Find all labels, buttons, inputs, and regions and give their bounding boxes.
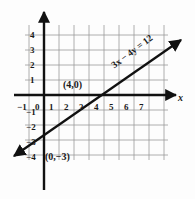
y-tick-label-neg2: −2 bbox=[26, 123, 36, 132]
y-tick-label-neg4: −4 bbox=[26, 153, 36, 162]
x-tick-label-4: 4 bbox=[94, 103, 99, 112]
y-tick-label-2: 2 bbox=[30, 61, 35, 70]
y-tick-label-neg3: −3 bbox=[26, 138, 36, 147]
x-tick-label-7: 7 bbox=[139, 103, 144, 112]
y-tick-label-4: 4 bbox=[30, 31, 35, 40]
x-tick-label-3: 3 bbox=[79, 103, 84, 112]
plotted-line-3x-4y-12 bbox=[14, 40, 181, 156]
point-label-x-intercept: (4,0) bbox=[63, 80, 82, 90]
coordinate-graph-figure: −1 0 1 2 3 4 5 6 7 4 3 2 1 −1 −2 −3 −4 (… bbox=[0, 0, 195, 199]
point-label-y-intercept: (0,−3) bbox=[45, 152, 70, 162]
x-tick-label-5: 5 bbox=[109, 103, 114, 112]
x-tick-label-1: 1 bbox=[49, 103, 54, 112]
x-axis-name-label: x bbox=[178, 93, 183, 103]
y-tick-label-3: 3 bbox=[30, 46, 35, 55]
x-tick-label-6: 6 bbox=[124, 103, 129, 112]
y-tick-label-1: 1 bbox=[30, 76, 35, 85]
y-tick-label-neg1: −1 bbox=[26, 108, 36, 117]
x-tick-label-2: 2 bbox=[64, 103, 69, 112]
